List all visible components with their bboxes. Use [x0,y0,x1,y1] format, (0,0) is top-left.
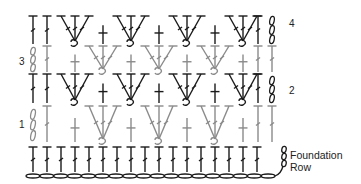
row-number-label: 1 [19,120,25,130]
v-stitch-fan-symbol [169,74,206,105]
v-stitch-fan-symbol [141,46,178,74]
row-number-label: 4 [289,19,295,29]
double-crochet-symbol [169,147,178,172]
pattern-row4 [29,16,276,46]
chain-stitch-symbol [220,174,234,178]
turning-chain-symbol [269,16,275,44]
double-crochet-symbol [43,147,52,172]
chain-stitch-symbol [54,174,68,178]
cross-stitch-symbol [99,84,108,104]
pattern-row2 [29,74,276,105]
cross-stitch-symbol [99,25,108,44]
row-number-label: 2 [289,86,295,96]
foundation-chain [26,166,283,178]
double-crochet-symbol [99,147,108,172]
chain-stitch-symbol [26,174,40,178]
foundation-row-label: Foundation Row [290,149,343,173]
v-stitch-fan-symbol [85,46,122,74]
cross-stitch-symbol [211,25,220,44]
double-crochet-symbol [29,16,38,44]
turning-chain-symbol [30,47,36,72]
double-crochet-symbol [29,74,38,103]
double-crochet-symbol [127,147,136,172]
v-stitch-fan-symbol [197,46,234,74]
v-stitch-fan-symbol [169,16,206,46]
pattern-rows [29,16,277,144]
double-crochet-symbol [268,46,277,72]
double-crochet-symbol [155,147,164,172]
chain-stitch-symbol [81,174,95,178]
chain-stitch-symbol [178,174,192,178]
cross-stitch-symbol [183,54,192,72]
cross-stitch-symbol [211,84,220,104]
foundation-label-line2: Row [290,161,343,173]
cross-stitch-symbol [71,118,80,142]
double-crochet-symbol [113,147,122,172]
chain-stitch-symbol [247,174,261,178]
double-crochet-symbol [254,106,263,142]
v-stitch-fan-symbol [57,74,94,105]
double-crochet-symbol [43,16,52,44]
turning-chain-symbol [281,146,287,167]
chain-stitch-symbol [95,174,109,178]
chain-stitch-symbol [206,174,220,178]
turning-chain-symbol [30,109,36,141]
v-stitch-fan-symbol [113,74,150,105]
chain-stitch-symbol [234,174,248,178]
chain-stitch-symbol [164,174,178,178]
v-stitch-fan-symbol [57,16,94,46]
double-crochet-symbol [268,106,277,142]
double-crochet-symbol [183,147,192,172]
double-crochet-symbol [254,46,263,72]
chain-stitch-symbol [192,174,206,178]
v-stitch-fan-symbol [141,106,178,144]
cross-stitch-symbol [155,84,164,104]
chain-stitch-symbol [261,174,275,178]
double-crochet-symbol [253,147,262,172]
double-crochet-symbol [43,106,52,142]
double-crochet-symbol [239,147,248,172]
chain-stitch-symbol [40,174,54,178]
v-stitch-fan-symbol [113,16,150,46]
pattern-row1 [30,106,277,144]
row-number-label: 3 [19,57,25,67]
v-stitch-fan-symbol [197,106,234,144]
double-crochet-symbol [197,147,206,172]
chain-stitch-symbol [109,174,123,178]
chain-stitch-symbol [68,174,82,178]
double-crochet-symbol [29,147,38,172]
turning-chain-symbol [269,76,275,103]
foundation-row [26,146,287,178]
double-crochet-symbol [43,46,52,72]
cross-stitch-symbol [127,54,136,72]
double-crochet-symbol [141,147,150,172]
chain-stitch-symbol [151,174,165,178]
double-crochet-symbol [43,74,52,103]
cross-stitch-symbol [155,25,164,44]
double-crochet-symbol [71,147,80,172]
cross-stitch-symbol [239,118,248,142]
cross-stitch-symbol [183,118,192,142]
chain-stitch-symbol [123,174,137,178]
chain-stitch-symbol [137,174,151,178]
double-crochet-symbol [225,147,234,172]
pattern-row3 [30,46,276,74]
foundation-label-line1: Foundation [290,149,343,161]
chain-corner [275,166,283,176]
double-crochet-symbol [211,147,220,172]
cross-stitch-symbol [71,54,80,72]
v-stitch-fan-symbol [85,106,122,144]
double-crochet-symbol [57,147,66,172]
cross-stitch-symbol [239,54,248,72]
double-crochet-symbol [85,147,94,172]
cross-stitch-symbol [127,118,136,142]
